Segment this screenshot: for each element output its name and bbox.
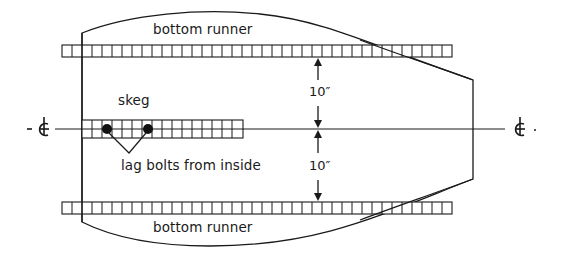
top-runner-label: bottom runner <box>153 21 253 37</box>
top-runner <box>62 45 452 57</box>
skeg-diagram <box>0 0 562 257</box>
skeg-label: skeg <box>118 92 150 108</box>
lag-bolt-2 <box>143 124 153 134</box>
centerline-symbol-right <box>516 117 536 136</box>
centerline-symbol-left <box>27 117 49 136</box>
lag-bolt-1 <box>102 124 112 134</box>
lag-bolts-label: lag bolts from inside <box>121 157 261 173</box>
dimension-upper-label: 10″ <box>309 84 330 99</box>
bottom-runner-label: bottom runner <box>153 219 253 235</box>
dimension-lower-label: 10″ <box>309 158 330 173</box>
